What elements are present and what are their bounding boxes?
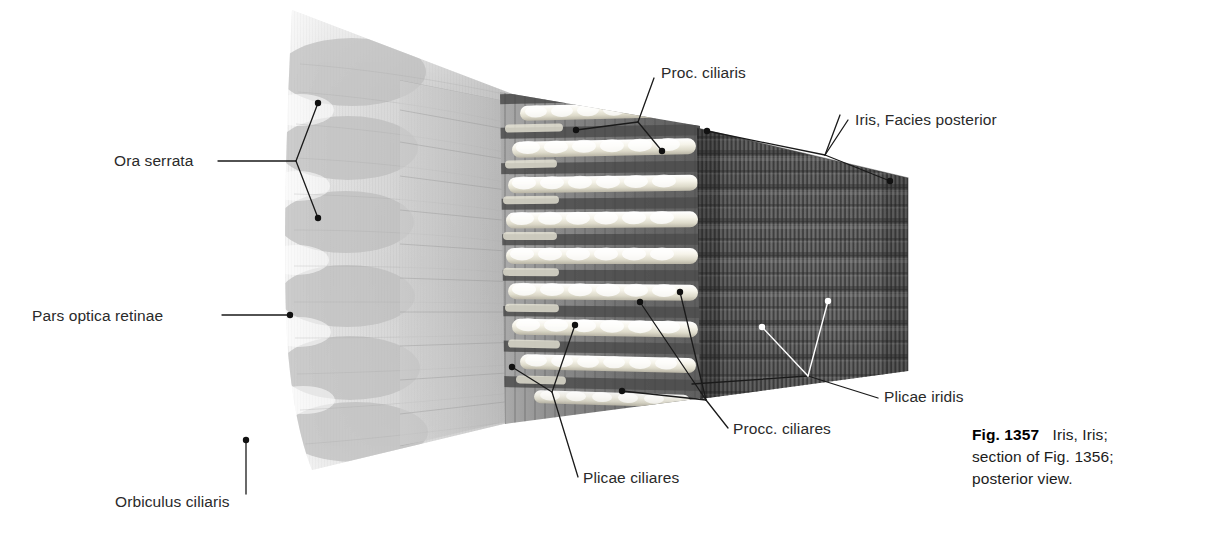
dot-pars-optica-retinae [287, 312, 293, 318]
label-proc-ciliaris: Proc. ciliaris [661, 64, 746, 82]
caption-line-3: posterior view. [972, 468, 1212, 490]
dot-plicae-iridis-b [759, 324, 765, 330]
figure-caption: Fig. 1357 Iris, Iris; section of Fig. 13… [972, 424, 1212, 490]
dot-ora-serrata-lower [315, 215, 321, 221]
dot-procc-ciliares-b [677, 289, 683, 295]
dot-orbiculus-ciliaris [243, 437, 249, 443]
label-plicae-iridis: Plicae iridis [884, 388, 964, 406]
dot-proc-ciliaris-b [659, 148, 665, 154]
label-orbiculus-ciliaris: Orbiculus ciliaris [115, 493, 230, 511]
caption-line-1: Iris, Iris; [1052, 426, 1107, 443]
figure-page: Ora serrata Pars optica retinae Orbiculu… [0, 0, 1216, 547]
label-pars-optica-retinae: Pars optica retinae [32, 307, 163, 325]
label-ora-serrata: Ora serrata [114, 152, 194, 170]
figure-number: Fig. 1357 [972, 426, 1039, 443]
dot-procc-ciliares-a [637, 299, 643, 305]
dot-ora-serrata-upper [315, 100, 321, 106]
dot-iris-facies-b [887, 178, 893, 184]
dot-plicae-ciliares-a [509, 364, 515, 370]
dot-procc-ciliares-c [619, 388, 625, 394]
label-plicae-ciliares: Plicae ciliares [583, 469, 679, 487]
caption-gap [1039, 426, 1052, 443]
dot-plicae-ciliares-b [572, 322, 578, 328]
dot-iris-facies-a [704, 128, 710, 134]
dot-proc-ciliaris-a [573, 127, 579, 133]
caption-line-2: section of Fig. 1356; [972, 446, 1212, 468]
label-iris-facies-posterior: Iris, Facies posterior [855, 111, 997, 129]
label-procc-ciliares: Procc. ciliares [733, 420, 831, 438]
ciliary-process-ridges [503, 102, 698, 408]
ciliary-processes-region [495, 80, 710, 430]
dot-plicae-iridis-a [825, 298, 831, 304]
